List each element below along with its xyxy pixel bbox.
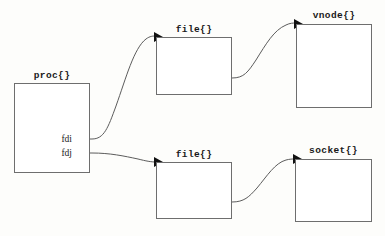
vnode-box-label: vnode{} [296,10,372,21]
file-bottom-to-socket-curve [232,159,295,202]
file-bottom-box-label: file{} [156,149,232,160]
proc-box [14,83,90,173]
socket-box [295,159,372,222]
file-top-to-vnode-curve [232,23,296,78]
file-top-box [156,37,232,95]
fdj-to-file-bottom-curve [92,153,156,162]
file-bottom-box [156,162,232,219]
vnode-box [296,24,372,108]
fd-label-fdi: fdi [50,134,72,144]
diagram-canvas: proc{} file{} vnode{} file{} socket{} fd… [0,0,385,236]
fd-label-fdj: fdj [50,148,72,158]
proc-box-label: proc{} [14,70,90,81]
fdi-to-file-top-curve [92,36,156,139]
file-top-box-label: file{} [156,24,232,35]
socket-box-label: socket{} [295,145,372,156]
